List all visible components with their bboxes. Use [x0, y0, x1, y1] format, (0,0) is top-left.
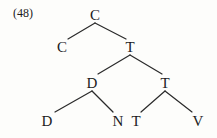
tree-node-n5: D	[42, 114, 53, 129]
tree-edge-n2-n3	[98, 55, 130, 74]
tree-edge-n0-n1	[68, 23, 95, 39]
tree-edge-n0-n2	[95, 23, 126, 39]
tree-node-n1: C	[57, 40, 67, 55]
tree-node-n8: V	[193, 114, 204, 129]
tree-diagram-figure: (48) CCTDTDNTV	[0, 0, 217, 138]
tree-node-n6: N	[113, 114, 124, 129]
tree-edge-n3-n6	[92, 91, 113, 112]
tree-node-n2: T	[125, 40, 134, 55]
tree-node-n4: T	[160, 76, 169, 91]
tree-node-n7: T	[131, 114, 140, 129]
tree-edge-n3-n5	[55, 91, 92, 112]
tree-branch-lines	[0, 0, 217, 138]
tree-edge-n4-n8	[165, 91, 192, 112]
tree-edge-n4-n7	[141, 91, 165, 112]
tree-node-n0: C	[90, 8, 100, 23]
tree-node-n3: D	[87, 76, 98, 91]
tree-edge-n2-n4	[130, 55, 162, 74]
